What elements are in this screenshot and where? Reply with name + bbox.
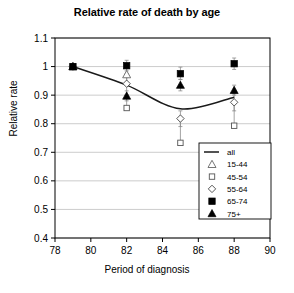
y-tick-label: 0.4 <box>34 233 48 244</box>
legend-label-55-64: 55-64 <box>227 185 248 194</box>
legend-marker-65-74 <box>209 198 215 204</box>
y-tick-label: 0.8 <box>34 118 48 129</box>
x-tick-label: 80 <box>85 245 97 256</box>
data-point-55-64 <box>177 115 184 122</box>
legend-label-45-54: 45-54 <box>227 173 248 182</box>
y-tick-label: 0.5 <box>34 204 48 215</box>
y-tick-label: 0.9 <box>34 90 48 101</box>
data-point-15-44 <box>123 71 131 78</box>
series-line-all <box>73 67 234 110</box>
data-point-65-74 <box>231 61 237 67</box>
data-point-65-74 <box>177 71 183 77</box>
chart-container: Relative rate of death by age Relative r… <box>0 0 294 293</box>
x-tick-label: 82 <box>121 245 133 256</box>
data-point-45-54 <box>231 123 236 128</box>
y-tick-label: 0.6 <box>34 175 48 186</box>
legend-marker-45-54 <box>209 174 214 179</box>
y-tick-label: 1 <box>42 61 48 72</box>
x-tick-label: 84 <box>157 245 169 256</box>
y-tick-label: 0.7 <box>34 147 48 158</box>
x-tick-label: 90 <box>264 245 276 256</box>
plot-svg: 0.40.50.60.70.80.911.178808284868890all1… <box>0 0 294 293</box>
legend-label-all: all <box>227 148 235 157</box>
data-point-75plus <box>176 81 184 88</box>
data-point-65-74 <box>123 63 129 69</box>
legend-label-15-44: 15-44 <box>227 160 248 169</box>
data-point-55-64 <box>230 99 237 106</box>
data-point-75plus <box>230 86 238 93</box>
x-tick-label: 78 <box>49 245 61 256</box>
data-point-45-54 <box>124 105 129 110</box>
y-tick-label: 1.1 <box>34 33 48 44</box>
x-tick-label: 88 <box>229 245 241 256</box>
legend-label-75plus: 75+ <box>227 210 241 219</box>
x-tick-label: 86 <box>193 245 205 256</box>
data-point-75plus <box>123 92 131 99</box>
data-point-45-54 <box>178 140 183 145</box>
legend-label-65-74: 65-74 <box>227 197 248 206</box>
